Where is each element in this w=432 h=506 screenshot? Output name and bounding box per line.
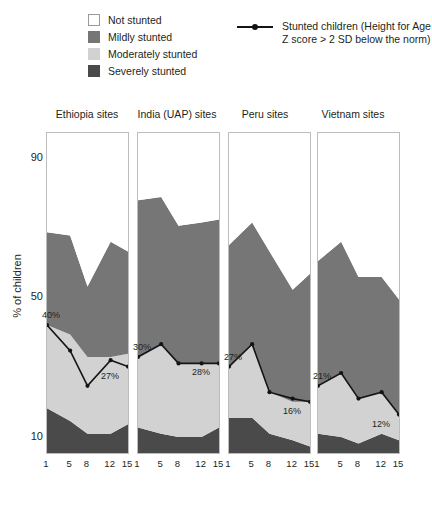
stacked-area-plot bbox=[138, 133, 219, 453]
data-point-marker bbox=[200, 361, 204, 365]
data-point-marker bbox=[339, 371, 343, 375]
data-point-marker bbox=[176, 361, 180, 365]
x-tick-8: 8 bbox=[171, 458, 185, 469]
x-tick-12: 12 bbox=[374, 458, 388, 469]
value-label: 16% bbox=[283, 406, 301, 416]
y-tick-10: 10 bbox=[17, 430, 43, 442]
panel-title-peru: Peru sites bbox=[224, 108, 306, 120]
stacked-area-plot bbox=[47, 133, 128, 453]
panel-title-vietnam: Vietnam sites bbox=[308, 108, 398, 120]
value-label: 21% bbox=[313, 371, 331, 381]
panel-title-ethiopia: Ethiopia sites bbox=[44, 108, 130, 120]
legend-label-stunted-children: Stunted children (Height for Age Z score… bbox=[282, 20, 432, 46]
plot-panel-ethiopia bbox=[46, 132, 129, 454]
x-tick-8: 8 bbox=[262, 458, 276, 469]
value-label: 27% bbox=[224, 352, 242, 362]
data-point-marker bbox=[68, 349, 72, 353]
data-point-marker bbox=[267, 390, 271, 394]
data-point-marker bbox=[356, 397, 360, 401]
plot-panel-vietnam bbox=[317, 132, 400, 454]
x-tick-12: 12 bbox=[285, 458, 299, 469]
legend-item-severely-stunted: Severely stunted bbox=[88, 65, 186, 77]
plot-panel-india bbox=[137, 132, 220, 454]
y-axis-title: % of children bbox=[11, 241, 23, 331]
value-label: 28% bbox=[192, 367, 210, 377]
data-point-marker bbox=[109, 358, 113, 362]
legend-label-mildly-stunted: Mildly stunted bbox=[108, 31, 172, 43]
legend-item-moderately-stunted: Moderately stunted bbox=[88, 48, 197, 60]
data-point-marker bbox=[159, 342, 163, 346]
legend-swatch-mildly-stunted bbox=[88, 31, 100, 43]
legend-label-not-stunted: Not stunted bbox=[108, 14, 162, 26]
y-tick-50: 50 bbox=[17, 290, 43, 302]
x-tick-8: 8 bbox=[351, 458, 365, 469]
y-tick-90: 90 bbox=[17, 151, 43, 163]
x-tick-5: 5 bbox=[333, 458, 347, 469]
line-marker-icon bbox=[237, 21, 273, 33]
legend-item-stunted-children-line: Stunted children (Height for Age Z score… bbox=[237, 20, 432, 46]
legend-swatch-moderately-stunted bbox=[88, 48, 100, 60]
legend-swatch-severely-stunted bbox=[88, 65, 100, 77]
legend-label-moderately-stunted: Moderately stunted bbox=[108, 48, 197, 60]
stacked-area-plot bbox=[318, 133, 399, 453]
x-tick-15: 15 bbox=[391, 458, 405, 469]
x-tick-1: 1 bbox=[39, 458, 53, 469]
legend-item-not-stunted: Not stunted bbox=[88, 14, 162, 26]
x-tick-1: 1 bbox=[130, 458, 144, 469]
x-tick-8: 8 bbox=[80, 458, 94, 469]
data-point-marker bbox=[380, 390, 384, 394]
legend-item-mildly-stunted: Mildly stunted bbox=[88, 31, 172, 43]
value-label: 12% bbox=[372, 419, 390, 429]
x-tick-5: 5 bbox=[62, 458, 76, 469]
chart-legend: Not stunted Mildly stunted Moderately st… bbox=[0, 0, 403, 100]
legend-label-severely-stunted: Severely stunted bbox=[108, 65, 186, 77]
data-point-marker bbox=[85, 384, 89, 388]
value-label: 40% bbox=[42, 310, 60, 320]
x-tick-12: 12 bbox=[103, 458, 117, 469]
data-point-marker bbox=[250, 342, 254, 346]
panel-title-india: India (UAP) sites bbox=[129, 108, 225, 120]
value-label: 30% bbox=[133, 342, 151, 352]
x-tick-1: 1 bbox=[221, 458, 235, 469]
legend-swatch-not-stunted bbox=[88, 14, 100, 26]
x-tick-12: 12 bbox=[194, 458, 208, 469]
value-label: 27% bbox=[101, 371, 119, 381]
data-point-marker bbox=[291, 397, 295, 401]
x-tick-5: 5 bbox=[153, 458, 167, 469]
x-tick-1: 1 bbox=[310, 458, 324, 469]
x-tick-5: 5 bbox=[244, 458, 258, 469]
